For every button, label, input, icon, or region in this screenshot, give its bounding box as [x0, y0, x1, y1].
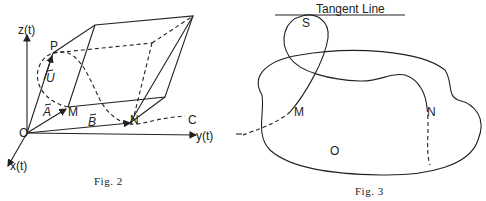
- vector-A-label: A: [42, 105, 51, 119]
- curve-dashed-start: [243, 112, 290, 135]
- vector-B: [27, 123, 130, 133]
- fig2-caption: Fig. 2: [94, 175, 123, 187]
- origin-label: O: [19, 126, 28, 140]
- tangent-line-label: Tangent Line: [316, 2, 385, 16]
- point-O-label: O: [330, 144, 339, 158]
- point-M-label: M: [68, 105, 78, 119]
- y-axis-label: y(t): [196, 129, 213, 143]
- box-hidden-edge: [53, 43, 152, 53]
- figure-page: z(t) y(t) x(t) O P M N C U A B Fig. 2 Ta…: [0, 0, 486, 201]
- point-N-label: N: [427, 105, 436, 119]
- x-axis-label: x(t): [10, 159, 27, 173]
- point-S-label: S: [302, 16, 310, 30]
- box-edge: [130, 16, 193, 123]
- region-boundary: [258, 50, 481, 175]
- y-axis: [27, 133, 196, 135]
- vector-U-label: U: [46, 71, 55, 85]
- vector-B-label: B: [88, 115, 96, 129]
- box-hidden-edge: [152, 16, 193, 43]
- diagram-canvas: z(t) y(t) x(t) O P M N C U A B Fig. 2 Ta…: [0, 0, 486, 201]
- point-N-label: N: [130, 113, 139, 127]
- fig3-caption: Fig. 3: [355, 185, 384, 197]
- box-edge: [68, 25, 95, 107]
- point-M-label: M: [294, 105, 304, 119]
- point-P-label: P: [50, 39, 58, 53]
- fig2-diagram: z(t) y(t) x(t) O P M N C U A B Fig. 2: [8, 16, 242, 187]
- fig3-diagram: Tangent Line S M N O Fig. 3: [243, 2, 481, 197]
- point-C-label: C: [188, 113, 197, 127]
- z-axis-label: z(t): [18, 23, 35, 37]
